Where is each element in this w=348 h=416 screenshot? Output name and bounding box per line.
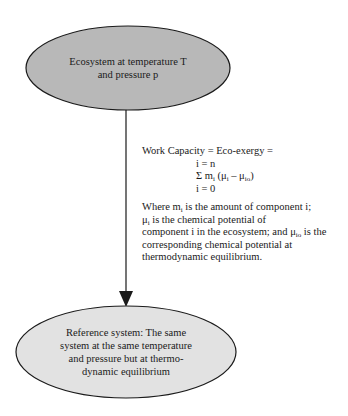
desc-line-2: μi is the chemical potential of — [142, 214, 348, 227]
desc-line-1: Where mi is the amount of component i; — [142, 201, 348, 214]
upper-limit: i = n — [142, 158, 348, 171]
arrowhead-icon — [119, 291, 133, 307]
eco-exergy-annotation: Work Capacity = Eco-exergy = i = n Σ mi … — [142, 145, 348, 264]
top-node-line-1: Ecosystem at temperature T — [38, 55, 218, 68]
desc-line-4: corresponding chemical potential at — [142, 239, 348, 252]
sigma-symbol: Σ — [196, 170, 202, 181]
bottom-node-label: Reference system: The same system at the… — [36, 326, 216, 378]
sum-expression: Σ mi (μi – μio) — [142, 170, 348, 183]
variable-description: Where mi is the amount of component i; μ… — [142, 201, 348, 264]
top-node-label: Ecosystem at temperature T and pressure … — [38, 55, 218, 81]
desc-line-3: component i in the ecosystem; and μio is… — [142, 226, 348, 239]
bottom-node-line-3: and pressure but at thermo- — [36, 352, 216, 365]
bottom-node-line-2: system at the same temperature — [36, 339, 216, 352]
equation-title: Work Capacity = Eco-exergy = — [142, 145, 348, 158]
lower-limit: i = 0 — [142, 183, 348, 196]
bottom-node-line-4: dynamic equilibrium — [36, 365, 216, 378]
bottom-node-line-1: Reference system: The same — [36, 326, 216, 339]
top-node-line-2: and pressure p — [38, 68, 218, 81]
desc-line-5: thermodynamic equilibrium. — [142, 251, 348, 264]
